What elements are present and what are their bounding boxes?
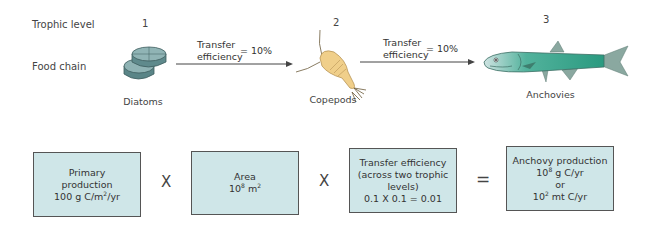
arrow-1	[174, 60, 294, 68]
arrow-1-value: = 10%	[240, 45, 272, 56]
box-4-value-1: 108 g C/yr	[536, 167, 583, 179]
trophic-level-3: 3	[543, 14, 549, 25]
trophic-level-1: 1	[142, 18, 148, 29]
transfer-efficiency-box: Transfer efficiency (across two trophic …	[349, 148, 457, 213]
box-2-value: 108 m2	[229, 183, 261, 195]
food-chain-label: Food chain	[32, 61, 86, 72]
equals-operator: =	[476, 169, 490, 189]
anchovy-production-box: Anchovy production 108 g C/yr or 102 mt …	[506, 146, 614, 211]
box-1-line-1: Primary	[69, 167, 106, 179]
box-4-or: or	[555, 179, 565, 191]
box-3-line-2: (across two trophic	[358, 169, 449, 181]
arrow-2	[358, 58, 478, 66]
arrow-2-value: = 10%	[426, 43, 458, 54]
arrow-2-label-line1: Transfer	[383, 37, 421, 48]
diatoms-caption: Diatoms	[118, 96, 168, 107]
box-3-line-4: 0.1 X 0.1 = 0.01	[364, 193, 442, 205]
multiply-operator-2: X	[319, 172, 329, 190]
box-1-value: 100 g C/m2/yr	[54, 191, 120, 203]
box-2-line-1: Area	[234, 171, 256, 183]
diatoms-icon	[118, 44, 172, 86]
anchovy-icon	[482, 38, 632, 88]
multiply-operator-1: X	[161, 173, 171, 191]
copepods-caption: Copepods	[303, 94, 363, 105]
area-box: Area 108 m2	[191, 151, 299, 215]
box-3-line-1: Transfer efficiency	[360, 157, 447, 169]
arrow-1-label-line1: Transfer	[197, 39, 235, 50]
anchovies-caption: Anchovies	[523, 89, 578, 100]
box-3-line-3: levels)	[387, 181, 418, 193]
box-4-title: Anchovy production	[513, 155, 608, 167]
trophic-level-label: Trophic level	[32, 19, 95, 30]
box-4-value-2: 102 mt C/yr	[533, 191, 587, 203]
primary-production-box: Primary production 100 g C/m2/yr	[33, 152, 141, 217]
